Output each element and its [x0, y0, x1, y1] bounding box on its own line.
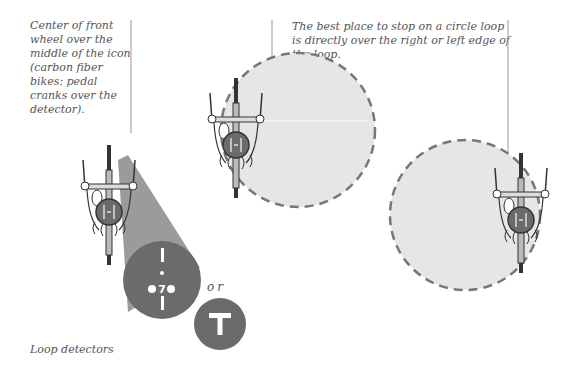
- t-detector-icon: [194, 298, 246, 350]
- bike-detector-icon: 7: [123, 241, 201, 319]
- circle-loop-1: [221, 53, 375, 207]
- svg-text:7: 7: [158, 283, 166, 296]
- diagram-canvas: 7: [0, 0, 573, 372]
